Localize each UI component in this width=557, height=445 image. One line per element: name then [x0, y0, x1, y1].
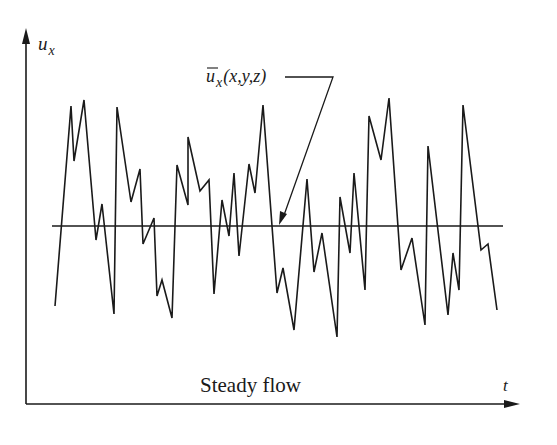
velocity-fluctuation-line	[55, 98, 497, 337]
steady-flow-diagram: ux ux(x,y,z) Steady flow t	[0, 0, 557, 445]
caption: Steady flow	[200, 373, 302, 397]
x-axis-label: t	[503, 376, 509, 395]
y-axis-arrow-icon	[22, 28, 30, 44]
y-axis-label: ux	[38, 33, 56, 58]
x-axis-arrow-icon	[504, 400, 520, 408]
mean-label: ux(x,y,z)	[206, 66, 266, 90]
leader-arrow-icon	[279, 211, 287, 225]
